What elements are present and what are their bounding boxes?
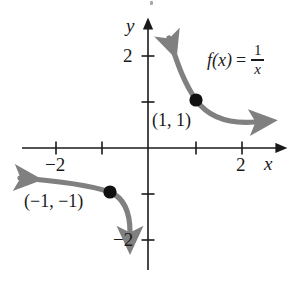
- y-tick-label-neg2: −2: [113, 230, 133, 249]
- point-marker-1-1: [189, 93, 202, 106]
- x-tick-label-neg2: −2: [45, 155, 65, 174]
- function-graph-figure: y x 2 −2 −2 2 (1, 1) (−1, −1) f(x) = 1 x: [0, 0, 302, 293]
- equals-sign: =: [236, 50, 246, 71]
- fraction: 1 x: [251, 43, 264, 77]
- y-axis: [142, 28, 155, 270]
- x-axis-label: x: [264, 154, 272, 173]
- function-expression: f(x) = 1 x: [207, 44, 264, 78]
- fraction-denominator: x: [254, 61, 261, 77]
- point-marker-neg1-neg1: [103, 185, 116, 198]
- function-name: f(x): [207, 50, 232, 71]
- y-axis-label: y: [126, 16, 134, 35]
- point-label-neg1-neg1: (−1, −1): [24, 192, 83, 210]
- y-tick-label-2: 2: [123, 46, 133, 65]
- point-label-1-1: (1, 1): [152, 111, 191, 129]
- x-tick-label-2: 2: [236, 155, 246, 174]
- fraction-numerator: 1: [254, 43, 262, 59]
- x-axis: [22, 142, 277, 155]
